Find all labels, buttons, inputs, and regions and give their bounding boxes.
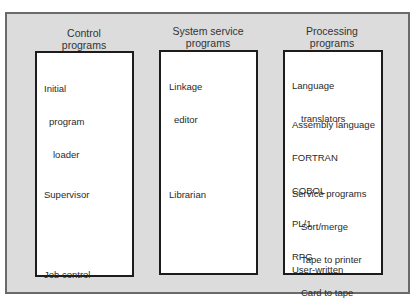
column-title-line: programs bbox=[24, 39, 144, 51]
item-line: editor bbox=[169, 114, 202, 125]
column-title-line: Control bbox=[24, 27, 144, 39]
item-line: FORTRAN bbox=[292, 152, 375, 163]
item-linkage-editor: Linkage editor bbox=[169, 59, 202, 136]
item-initial-program-loader: Initial program loader bbox=[44, 61, 84, 171]
item-line: loader bbox=[44, 149, 84, 160]
item-line: Supervisor bbox=[44, 189, 89, 200]
item-supervisor: Supervisor bbox=[44, 167, 89, 211]
item-line: Linkage bbox=[169, 81, 202, 92]
item-user-written-programs: User-written programs bbox=[292, 242, 343, 300]
item-line: Librarian bbox=[169, 189, 206, 200]
column-title-control-programs: Control programs bbox=[24, 27, 144, 51]
item-line: Assembly language bbox=[292, 119, 375, 130]
column-title-line: programs bbox=[272, 37, 392, 49]
item-line: Sort/merge bbox=[292, 221, 366, 232]
item-job-control: Job control bbox=[44, 247, 90, 291]
column-title-system-service-programs: System service programs bbox=[148, 25, 268, 49]
column-title-line: programs bbox=[148, 37, 268, 49]
item-line: program bbox=[44, 116, 84, 127]
item-librarian: Librarian bbox=[169, 167, 206, 211]
item-line: User-written bbox=[292, 264, 343, 275]
item-line: Language bbox=[292, 80, 345, 91]
item-line: Initial bbox=[44, 83, 84, 94]
column-title-line: System service bbox=[148, 25, 268, 37]
item-line: Service programs bbox=[292, 188, 366, 199]
item-line: Job control bbox=[44, 269, 90, 280]
column-title-line: Processing bbox=[272, 25, 392, 37]
column-title-processing-programs: Processing programs bbox=[272, 25, 392, 49]
